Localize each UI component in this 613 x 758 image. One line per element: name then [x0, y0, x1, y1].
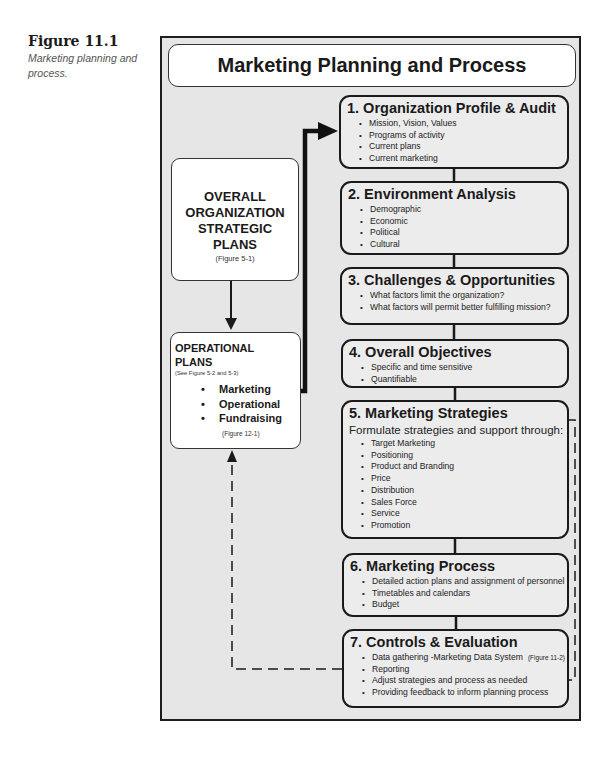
step-7-figure-ref: (Figure 11-2): [528, 654, 565, 661]
step-7-item-text: Data gathering -Marketing Data System: [372, 652, 523, 662]
dashed-feedback-to-operational: [232, 460, 342, 669]
step-1-item: Mission, Vision, Values: [359, 118, 561, 130]
operational-plans-box: OPERATIONAL PLANS (See Figure 5-2 and 5-…: [170, 332, 301, 449]
step-2-item: Economic: [360, 216, 561, 228]
operational-list: Marketing Operational Fundraising: [175, 382, 300, 426]
step-6-title: 6. Marketing Process: [350, 558, 561, 575]
step-2-item: Demographic: [360, 204, 561, 216]
arrowhead-operational-up: [227, 450, 237, 462]
step-4-item: Specific and time sensitive: [361, 362, 561, 374]
step-5-item: Price: [361, 473, 561, 485]
step-6-box: 6. Marketing Process Detailed action pla…: [342, 553, 569, 617]
step-3-title: 3. Challenges & Opportunities: [348, 272, 561, 289]
step-7-item: Data gathering -Marketing Data System(Fi…: [362, 652, 561, 664]
step-2-box: 2. Environment Analysis Demographic Econ…: [340, 181, 569, 255]
step-1-item: Current marketing: [359, 153, 561, 165]
step-7-item: Reporting: [362, 664, 561, 676]
step-5-item: Promotion: [361, 520, 561, 532]
step-1-title: 1. Organization Profile & Audit: [347, 100, 561, 117]
arrowhead-operational: [225, 318, 237, 330]
step-5-item: Product and Branding: [361, 461, 561, 473]
step-3-box: 3. Challenges & Opportunities What facto…: [340, 267, 569, 325]
overall-line-3: STRATEGIC: [172, 221, 298, 237]
step-2-item: Political: [360, 227, 561, 239]
step-5-item: Target Marketing: [361, 438, 561, 450]
step-7-item: Adjust strategies and process as needed: [362, 675, 561, 687]
step-4-item: Quantifiable: [361, 374, 561, 386]
step-7-title: 7. Controls & Evaluation: [350, 634, 561, 651]
step-3-item: What factors will permit better fulfilli…: [360, 302, 561, 314]
step-5-item: Positioning: [361, 450, 561, 462]
step-6-item: Budget: [362, 599, 561, 611]
step-6-item: Timetables and calendars: [362, 588, 561, 600]
step-5-item: Service: [361, 508, 561, 520]
step-2-title: 2. Environment Analysis: [348, 186, 561, 203]
arrowhead-step1: [318, 122, 338, 140]
step-4-box: 4. Overall Objectives Specific and time …: [341, 339, 569, 388]
step-1-box: 1. Organization Profile & Audit Mission,…: [339, 95, 569, 169]
fundraising-figure-ref: (Figure 12-1): [222, 430, 300, 437]
step-1-item: Programs of activity: [359, 130, 561, 142]
step-5-item: Sales Force: [361, 497, 561, 509]
step-5-item: Distribution: [361, 485, 561, 497]
operational-item-fundraising: Fundraising: [201, 411, 300, 426]
step-5-title: 5. Marketing Strategies: [349, 405, 561, 422]
step-2-item: Cultural: [360, 239, 561, 251]
step-4-title: 4. Overall Objectives: [349, 344, 561, 361]
overall-strategic-plans-box: OVERALL ORGANIZATION STRATEGIC PLANS (Fi…: [171, 158, 299, 281]
step-1-item: Current plans: [359, 141, 561, 153]
overall-line-2: ORGANIZATION: [172, 205, 298, 221]
overall-line-4: PLANS: [172, 237, 298, 253]
step-5-box: 5. Marketing Strategies Formulate strate…: [341, 400, 569, 539]
step-7-item: Providing feedback to inform planning pr…: [362, 687, 561, 699]
step-6-item: Detailed action plans and assignment of …: [362, 576, 561, 588]
operational-line-2: PLANS: [175, 355, 300, 369]
overall-line-1: OVERALL: [172, 189, 298, 205]
step-5-subtitle: Formulate strategies and support through…: [349, 423, 561, 437]
step-3-item: What factors limit the organization?: [360, 290, 561, 302]
operational-figure-ref: (See Figure 5-2 and 5-3): [175, 370, 300, 376]
operational-item-operational: Operational: [201, 397, 300, 412]
step-7-box: 7. Controls & Evaluation Data gathering …: [342, 629, 569, 708]
operational-line-1: OPERATIONAL: [175, 341, 300, 355]
overall-figure-ref: (Figure 5-1): [172, 254, 298, 264]
operational-item-marketing: Marketing: [201, 382, 300, 397]
